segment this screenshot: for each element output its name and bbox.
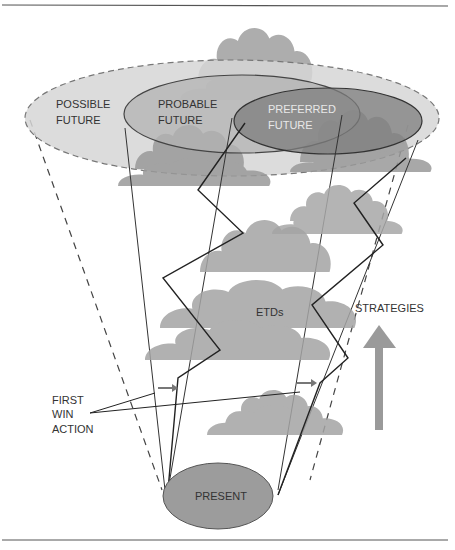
strategies-arrow	[363, 325, 396, 430]
etds-label: ETDs	[256, 306, 284, 318]
preferred-future-ellipse	[234, 88, 422, 154]
lower-clouds	[207, 390, 343, 435]
preferred-future-label-2: FUTURE	[268, 119, 313, 131]
first-win-action-label-1: FIRST	[52, 394, 84, 406]
possible-future-label-1: POSSIBLE	[56, 98, 110, 110]
etds-clouds	[145, 220, 356, 360]
first-win-action-label-3: ACTION	[52, 423, 94, 435]
possible-future-label-2: FUTURE	[56, 114, 101, 126]
probable-future-label-2: FUTURE	[158, 114, 203, 126]
probable-future-label-1: PROBABLE	[158, 98, 217, 110]
right-middle-clouds	[272, 185, 403, 234]
strategies-label: STRATEGIES	[355, 302, 424, 314]
first-win-arrow-right	[297, 379, 317, 387]
preferred-future-label-1: PREFERRED	[268, 103, 336, 115]
top-rule	[2, 5, 448, 6]
present-label: PRESENT	[195, 490, 247, 502]
futures-cone-diagram: POSSIBLE FUTURE PROBABLE FUTURE PREFERRE…	[0, 0, 455, 550]
first-win-action-label-2: WIN	[52, 408, 73, 420]
first-win-arrow-left	[158, 384, 178, 392]
